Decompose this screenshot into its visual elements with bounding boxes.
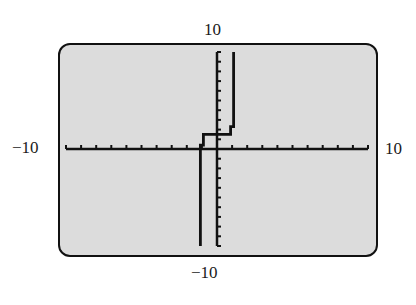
graph-plot <box>0 0 416 305</box>
axes <box>66 52 368 246</box>
